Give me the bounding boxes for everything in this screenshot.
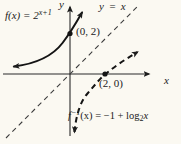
f-equation-label: f(x) = 2x+1 (5, 9, 52, 21)
function-inverse-graph: f(x) = 2x+1 y y = x (0, 2) (2, 0) x f−1(… (0, 0, 181, 144)
y-axis-label: y (59, 0, 64, 10)
inverse-equation-exponent: −1 (71, 108, 80, 117)
identity-line-label: y = x (99, 1, 127, 12)
point-2-0-marker (102, 71, 107, 76)
f-equation-exponent: x+1 (39, 8, 52, 17)
inverse-equation-arg: x (144, 110, 149, 121)
inverse-equation-body: (x) = −1 + log (80, 110, 139, 121)
point-0-2-marker (67, 31, 72, 36)
x-axis-label: x (164, 75, 169, 86)
point-0-2-label: (0, 2) (76, 26, 100, 37)
point-2-0-label: (2, 0) (99, 78, 123, 89)
f-equation-base: f(x) = 2 (5, 9, 39, 21)
inverse-equation-label: f−1(x) = −1 + log2x (68, 109, 148, 123)
